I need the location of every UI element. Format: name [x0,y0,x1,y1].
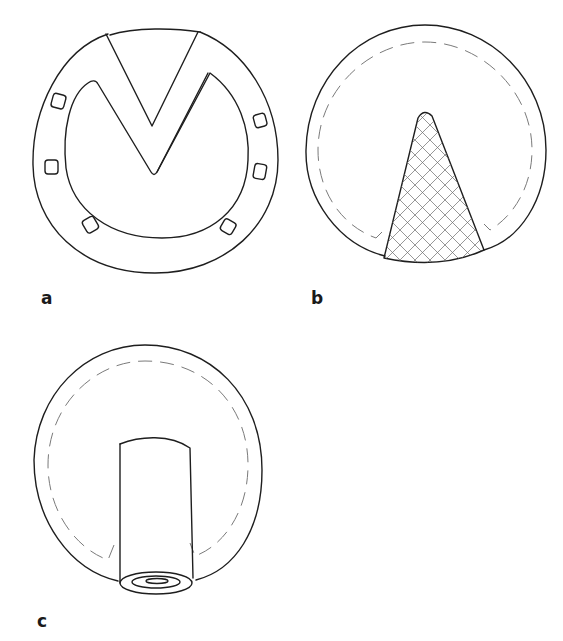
crosshatch [360,25,500,360]
hatched-wedge [384,112,484,262]
figure-canvas [0,0,563,641]
perforation [253,113,268,129]
perforation [219,218,237,236]
perforation [50,93,66,110]
tube-body [120,438,193,578]
perforation [45,160,58,174]
panel-a-plate [33,29,278,273]
panel-b-flap [306,25,546,360]
panel-label-c: c [37,613,47,630]
panel-label-b: b [311,290,323,307]
panel-label-a: a [41,290,52,307]
perforation [253,163,267,180]
panel-c-flap [34,345,262,594]
